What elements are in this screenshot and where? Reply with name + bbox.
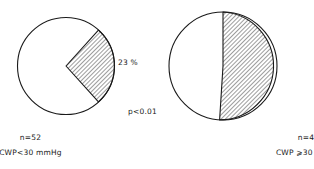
- pie-sample-size-left: n=52: [0, 133, 109, 142]
- pie-panel-right: 52 % n=48 CWP ⩾30 mmHg: [157, 0, 314, 169]
- pie-chart-figure: 23 % n=52 CWP<30 mmHg p<0.01 52 % n=48 C…: [0, 0, 314, 169]
- p-value-annotation: p<0.01: [128, 107, 157, 116]
- pie-chart-left: [0, 0, 157, 169]
- pie-slice-right-affected: [220, 12, 274, 120]
- pie-slice-label-left: 23 %: [118, 58, 138, 67]
- pie-chart-right: [157, 0, 314, 169]
- pie-sample-size-right: n=48: [230, 133, 314, 142]
- pie-group-label-right: CWP ⩾30 mmHg: [230, 148, 314, 157]
- pie-panel-left: 23 % n=52 CWP<30 mmHg p<0.01: [0, 0, 157, 169]
- pie-group-label-left: CWP<30 mmHg: [0, 148, 109, 157]
